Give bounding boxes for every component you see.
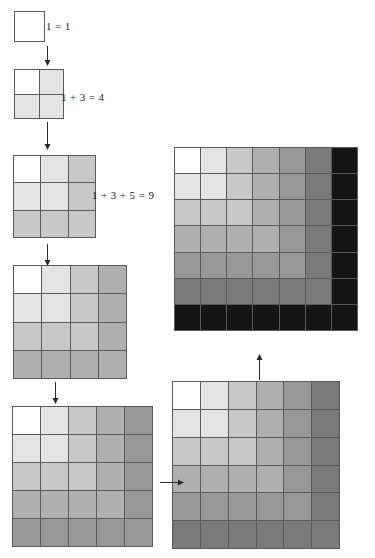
grid-cell bbox=[40, 95, 64, 119]
grid-cell bbox=[201, 279, 226, 304]
grid-cell bbox=[173, 521, 200, 548]
grid-cell bbox=[175, 148, 200, 173]
grid-cell bbox=[175, 253, 200, 278]
grid-cell bbox=[280, 279, 305, 304]
grid-cell bbox=[201, 521, 228, 548]
grid-cell bbox=[41, 156, 67, 182]
equation-label-eq-9: 1 + 3 + 5 = 9 bbox=[92, 190, 154, 201]
grid-cell bbox=[257, 466, 284, 493]
arrow-5-to-6-icon bbox=[160, 479, 184, 486]
grid-cell bbox=[253, 174, 278, 199]
grid-cell bbox=[306, 226, 331, 251]
grid-cell bbox=[229, 493, 256, 520]
grid-cell bbox=[229, 382, 256, 409]
grid-cell bbox=[97, 519, 124, 546]
grid-cell bbox=[41, 491, 68, 518]
grid-cell bbox=[42, 294, 69, 321]
grid-cell bbox=[173, 410, 200, 437]
grid-cell bbox=[312, 521, 339, 548]
grid-cell bbox=[125, 407, 152, 434]
square-grid-2 bbox=[14, 69, 64, 119]
grid-cell bbox=[69, 491, 96, 518]
grid-cell bbox=[201, 382, 228, 409]
grid-cell bbox=[257, 410, 284, 437]
grid-cell bbox=[312, 382, 339, 409]
grid-cell bbox=[15, 95, 39, 119]
grid-cell bbox=[40, 70, 64, 94]
grid-cell bbox=[201, 493, 228, 520]
grid-cell bbox=[201, 226, 226, 251]
grid-cell bbox=[42, 323, 69, 350]
grid-cell bbox=[332, 279, 357, 304]
grid-cell bbox=[173, 382, 200, 409]
grid-cell bbox=[14, 266, 41, 293]
grid-cell bbox=[175, 279, 200, 304]
grid-cell bbox=[257, 382, 284, 409]
grid-cell bbox=[14, 351, 41, 378]
grid-cell bbox=[227, 279, 252, 304]
arrow-2-to-3-icon bbox=[44, 122, 51, 150]
grid-cell bbox=[227, 253, 252, 278]
grid-cell bbox=[201, 305, 226, 330]
grid-cell bbox=[41, 435, 68, 462]
grid-cell bbox=[69, 435, 96, 462]
grid-cell bbox=[312, 410, 339, 437]
grid-cell bbox=[71, 323, 98, 350]
grid-cell bbox=[306, 148, 331, 173]
grid-cell bbox=[332, 174, 357, 199]
grid-cell bbox=[253, 200, 278, 225]
grid-cell bbox=[306, 200, 331, 225]
grid-cell bbox=[99, 294, 126, 321]
grid-cell bbox=[253, 305, 278, 330]
grid-cell bbox=[280, 305, 305, 330]
grid-cell bbox=[312, 438, 339, 465]
grid-cell bbox=[312, 493, 339, 520]
grid-cell bbox=[125, 519, 152, 546]
square-grid-6 bbox=[172, 381, 340, 549]
grid-cell bbox=[125, 435, 152, 462]
grid-cell bbox=[201, 410, 228, 437]
grid-cell bbox=[125, 463, 152, 490]
grid-cell bbox=[284, 466, 311, 493]
grid-cell bbox=[253, 148, 278, 173]
grid-cell bbox=[14, 183, 40, 209]
grid-cell bbox=[15, 70, 39, 94]
grid-cell bbox=[280, 200, 305, 225]
figure-canvas: 1 = 11 + 3 = 41 + 3 + 5 = 9 bbox=[0, 0, 375, 558]
grid-cell bbox=[284, 438, 311, 465]
grid-cell bbox=[125, 491, 152, 518]
grid-cell bbox=[175, 174, 200, 199]
grid-cell bbox=[332, 305, 357, 330]
grid-cell bbox=[201, 148, 226, 173]
grid-cell bbox=[280, 253, 305, 278]
grid-cell bbox=[284, 493, 311, 520]
grid-cell bbox=[71, 266, 98, 293]
grid-cell bbox=[99, 351, 126, 378]
grid-cell bbox=[41, 407, 68, 434]
equation-label-eq-4: 1 + 3 = 4 bbox=[61, 92, 105, 103]
grid-cell bbox=[69, 211, 95, 237]
grid-cell bbox=[41, 519, 68, 546]
grid-cell bbox=[280, 226, 305, 251]
grid-cell bbox=[306, 253, 331, 278]
grid-cell bbox=[15, 12, 44, 41]
arrow-1-to-2-icon bbox=[44, 46, 51, 66]
square-grid-3 bbox=[13, 155, 96, 238]
grid-cell bbox=[229, 521, 256, 548]
grid-cell bbox=[306, 305, 331, 330]
grid-cell bbox=[97, 435, 124, 462]
grid-cell bbox=[253, 279, 278, 304]
grid-cell bbox=[99, 266, 126, 293]
grid-cell bbox=[42, 351, 69, 378]
grid-cell bbox=[306, 174, 331, 199]
grid-cell bbox=[14, 323, 41, 350]
grid-cell bbox=[41, 211, 67, 237]
grid-cell bbox=[227, 148, 252, 173]
grid-cell bbox=[201, 200, 226, 225]
grid-cell bbox=[99, 323, 126, 350]
grid-cell bbox=[227, 226, 252, 251]
grid-cell bbox=[253, 226, 278, 251]
arrow-4-to-5-icon bbox=[52, 382, 59, 404]
grid-cell bbox=[13, 463, 40, 490]
grid-cell bbox=[69, 463, 96, 490]
